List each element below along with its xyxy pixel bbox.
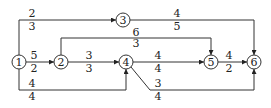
node-3: 3 bbox=[116, 13, 130, 27]
node-3-label: 3 bbox=[120, 14, 127, 27]
edge-5-6: 4 2 bbox=[218, 49, 247, 75]
node-1: 1 bbox=[12, 55, 26, 69]
edge-3-6-bottom-label: 5 bbox=[174, 20, 181, 33]
node-4: 4 bbox=[119, 55, 133, 69]
network-diagram: 2 3 4 5 5 2 6 3 3 3 4 4 4 2 4 4 bbox=[0, 0, 271, 108]
node-6-label: 6 bbox=[251, 56, 258, 69]
node-5-label: 5 bbox=[208, 56, 215, 69]
node-2: 2 bbox=[54, 55, 68, 69]
edge-3-6: 4 5 bbox=[130, 7, 254, 55]
edge-2-4-bottom-label: 3 bbox=[86, 62, 93, 75]
node-5: 5 bbox=[204, 55, 218, 69]
edge-4-6: 3 4 bbox=[131, 67, 254, 103]
edge-4-6-bottom-label: 4 bbox=[155, 90, 162, 103]
edge-5-6-top-label: 4 bbox=[226, 49, 233, 62]
node-6: 6 bbox=[247, 55, 261, 69]
edge-1-4-bottom-label: 4 bbox=[29, 90, 36, 103]
node-2-label: 2 bbox=[58, 56, 65, 69]
edge-2-4-top-label: 3 bbox=[86, 49, 93, 62]
edge-4-5: 4 4 bbox=[133, 49, 204, 75]
edge-1-2: 5 2 bbox=[26, 49, 54, 75]
edge-4-5-bottom-label: 4 bbox=[155, 62, 162, 75]
node-1-label: 1 bbox=[16, 56, 23, 69]
edge-1-2-top-label: 5 bbox=[31, 49, 38, 62]
edge-1-3-top-label: 2 bbox=[29, 7, 36, 20]
edge-2-5-bottom-label: 3 bbox=[133, 37, 140, 50]
edge-1-2-bottom-label: 2 bbox=[31, 62, 38, 75]
edge-2-4: 3 3 bbox=[68, 49, 119, 75]
edge-5-6-bottom-label: 2 bbox=[226, 62, 233, 75]
edge-3-6-top-label: 4 bbox=[174, 7, 181, 20]
edge-1-3: 2 3 bbox=[19, 7, 116, 55]
node-4-label: 4 bbox=[123, 56, 130, 69]
edge-4-5-top-label: 4 bbox=[155, 49, 162, 62]
edge-2-5: 6 3 bbox=[61, 26, 211, 55]
edge-4-6-top-label: 3 bbox=[155, 77, 162, 90]
edge-1-4-top-label: 4 bbox=[29, 77, 36, 90]
edge-1-3-bottom-label: 3 bbox=[29, 20, 36, 33]
